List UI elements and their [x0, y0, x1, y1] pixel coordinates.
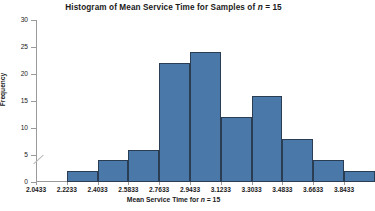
y-axis-tick-label: 5 [8, 151, 28, 158]
x-axis-title-suffix: = 15 [205, 196, 220, 203]
histogram-bar [313, 160, 344, 182]
y-axis-title: Frequency [0, 60, 6, 120]
histogram-bar [344, 171, 375, 182]
x-axis-title: Mean Service Time for n = 15 [0, 196, 347, 203]
plot-area [36, 20, 344, 182]
y-axis-tick-label: 25 [8, 43, 28, 50]
x-axis-title-text: Mean Service Time for [127, 196, 201, 203]
chart-title-text: Histogram of Mean Service Time for Sampl… [65, 3, 257, 12]
histogram-bar [221, 117, 252, 182]
histogram-bar [98, 160, 129, 182]
histogram-bar [282, 139, 313, 182]
histogram-bar [190, 52, 221, 182]
histogram-bar [159, 63, 190, 182]
y-axis-tick-label: 0 [8, 178, 28, 185]
x-axis-tick-label: 3.8433 [324, 186, 364, 193]
chart-title-suffix: = 15 [263, 3, 282, 12]
chart-title: Histogram of Mean Service Time for Sampl… [0, 3, 347, 12]
histogram-bar [252, 96, 283, 182]
y-axis-tick-label: 30 [8, 16, 28, 23]
y-axis-tick-label: 10 [8, 124, 28, 131]
histogram-bar [128, 150, 159, 182]
y-axis-tick-label: 15 [8, 97, 28, 104]
histogram-bar [67, 171, 98, 182]
y-axis-tick-label: 20 [8, 70, 28, 77]
